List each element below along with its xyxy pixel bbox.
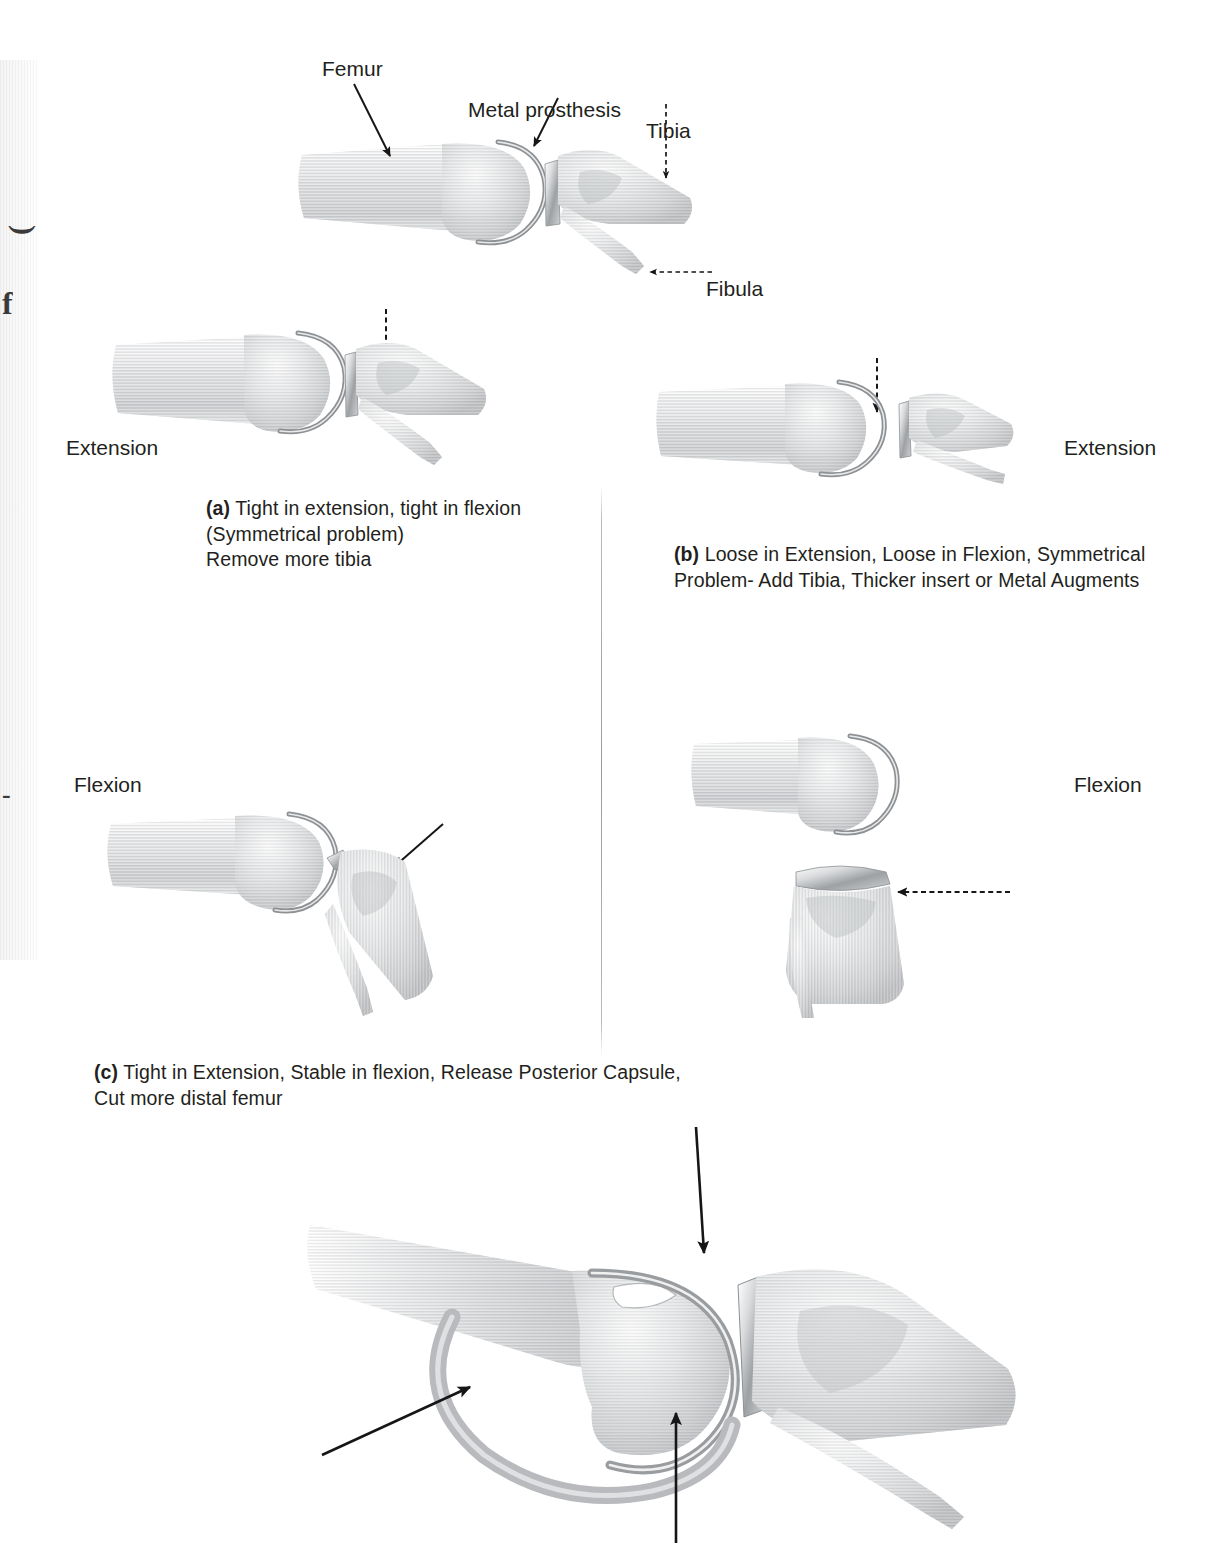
label-tibia: Tibia xyxy=(646,120,691,141)
caption-a-marker: (a) xyxy=(206,497,230,519)
page-margin-artifact: ( f - xyxy=(0,60,38,960)
caption-b-marker: (b) xyxy=(674,543,699,565)
margin-glyph-1: ( xyxy=(2,225,36,235)
label-extension-right: Extension xyxy=(1064,437,1156,458)
label-flexion-right: Flexion xyxy=(1074,774,1142,795)
column-divider xyxy=(601,486,602,1056)
margin-glyph-3: - xyxy=(2,780,11,810)
figure-canvas: ( f - xyxy=(0,0,1215,1551)
panel-c-flexion xyxy=(105,800,505,1040)
caption-a-line-2: (Symmetrical problem) xyxy=(206,522,586,548)
caption-a-line-1: Tight in extension, tight in flexion xyxy=(230,497,521,519)
panel-b-extension xyxy=(655,360,1045,510)
caption-c: (c) Tight in Extension, Stable in flexio… xyxy=(94,1060,754,1111)
label-flexion-left: Flexion xyxy=(74,774,142,795)
panel-a-extension xyxy=(108,305,508,485)
caption-a: (a) Tight in extension, tight in flexion… xyxy=(206,496,586,573)
caption-c-line-1: Tight in Extension, Stable in flexion, R… xyxy=(118,1061,681,1083)
caption-a-line-3: Remove more tibia xyxy=(206,547,586,573)
panel-b-flexion xyxy=(690,730,1020,1020)
label-fibula: Fibula xyxy=(706,278,763,299)
label-femur: Femur xyxy=(322,58,383,79)
margin-glyph-2: f xyxy=(2,285,13,322)
caption-c-marker: (c) xyxy=(94,1061,118,1083)
caption-b-line-1: Loose in Extension, Loose in Flexion, Sy… xyxy=(699,543,1145,565)
label-metal-prosthesis: Metal prosthesis xyxy=(468,99,621,120)
caption-c-line-2: Cut more distal femur xyxy=(94,1086,754,1112)
label-extension-left: Extension xyxy=(66,437,158,458)
panel-posterior-capsule xyxy=(292,1125,1032,1545)
caption-b: (b) Loose in Extension, Loose in Flexion… xyxy=(674,542,1194,593)
panel-overview xyxy=(292,120,712,310)
caption-b-line-2: Problem- Add Tibia, Thicker insert or Me… xyxy=(674,568,1194,594)
